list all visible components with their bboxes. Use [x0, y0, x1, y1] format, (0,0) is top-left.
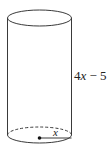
height-label-rest: − 5	[86, 68, 106, 83]
cylinder	[8, 10, 72, 143]
cylinder-bottom-back-arc-dashed	[8, 127, 72, 135]
cylinder-diagram: x 4x − 5	[0, 0, 107, 153]
center-point	[38, 136, 42, 140]
radius-label: x	[52, 126, 58, 138]
height-label: 4x − 5	[74, 68, 107, 83]
cylinder-top-ellipse	[8, 10, 72, 26]
